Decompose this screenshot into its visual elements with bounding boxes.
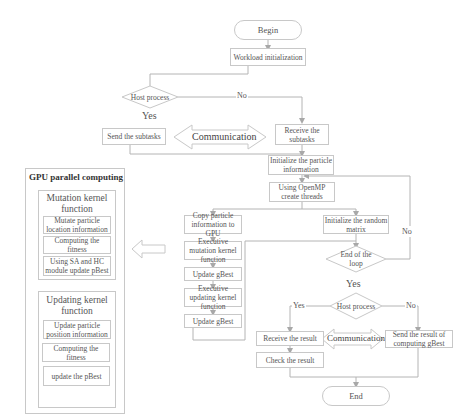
workload-initialization-box: Workload initialization xyxy=(230,48,306,66)
updating-step: Update particle position information xyxy=(43,320,111,339)
copy-particle-box: Copy particle information to GPU xyxy=(184,215,242,234)
updating-step: update the pBest xyxy=(43,366,110,386)
check-result-box: Check the result xyxy=(256,352,324,368)
no-label-1: No xyxy=(236,91,248,100)
end-terminal: End xyxy=(322,386,390,406)
mutation-kernel-title: Mutation kernel function xyxy=(40,193,114,215)
openmp-threads-box: Using OpenMP create threads xyxy=(269,182,335,202)
exec-updating-box: Executive updating kernel function xyxy=(184,288,242,307)
host-process-2-label: Host process xyxy=(330,300,382,312)
yes-label-2: Yes xyxy=(292,301,306,310)
send-subtasks-box: Send the subtasks xyxy=(102,128,166,145)
mutation-step: Using SA and HC module update pBest xyxy=(43,256,111,276)
update-gbest-box-1: Update gBest xyxy=(184,267,242,281)
to-gpu-panel-arrow xyxy=(132,240,165,258)
communication-label-1: Communication xyxy=(192,131,256,142)
update-gbest-box-2: Update gBest xyxy=(184,314,242,328)
send-result-box: Send the result of computing gBest xyxy=(385,330,453,348)
mutation-step: Computing the fitness xyxy=(43,236,111,254)
end-of-loop-label: End of the loop xyxy=(334,251,378,267)
receive-result-box: Receive the result xyxy=(256,331,324,346)
exec-mutation-box: Executive mutation kernel function xyxy=(184,241,242,260)
mutation-step: Mutate particle location information xyxy=(43,216,111,234)
initialize-random-matrix-box: Initialize the random matrix xyxy=(323,215,389,234)
host-process-1-label: Host process xyxy=(122,90,178,104)
receive-subtasks-box: Receive the subtasks xyxy=(275,124,329,145)
communication-label-2: Communication xyxy=(327,333,385,343)
no-label-2: No xyxy=(405,301,417,310)
gpu-panel-title: GPU parallel computing xyxy=(29,172,123,182)
updating-step: Computing the fitness xyxy=(42,343,110,362)
yes-label-1: Yes xyxy=(142,110,157,121)
begin-terminal: Begin xyxy=(234,20,302,40)
updating-kernel-title: Updating kernel function xyxy=(40,295,114,317)
initialize-particle-box: Initialize the particle information xyxy=(268,155,334,175)
no-loop-label: No xyxy=(402,226,412,237)
yes-loop-label: Yes xyxy=(346,278,361,289)
